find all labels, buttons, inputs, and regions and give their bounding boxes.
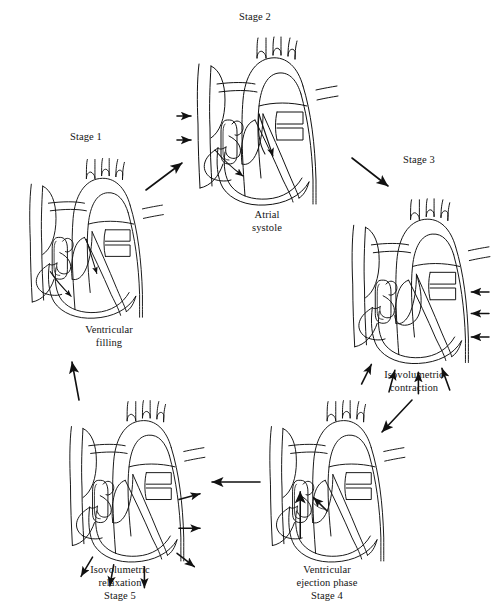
cardiac-cycle-figure: Stage 1 Ventricular filling Stage 2 Atri… [0,0,491,616]
connector-3-4-arrow [382,400,412,432]
stage-1-number-label: Stage 1 [46,130,126,143]
connector-5-1-arrow [72,362,79,400]
stage-3-heart-illustration [352,199,490,394]
stage-5-phase-label: Isovolumetric relaxation [70,563,170,589]
stage-4-heart-illustration [270,401,405,562]
stage-2-phase-label: Atrial systole [227,208,307,234]
stage-1-phase-label: Ventricular filling [69,323,149,349]
stage-4-number-label: Stage 4 [287,589,367,602]
stage-3-phase-label: Isovolumetric contraction [364,368,464,394]
stage-5-number-label: Stage 5 [80,589,160,602]
stage-1-heart-illustration [30,159,164,319]
stage-2-number-label: Stage 2 [215,10,295,23]
stage-4-phase-label: Ventricular ejection phase [277,563,377,589]
stage-2-heart-illustration [177,37,338,205]
diagram-canvas [0,0,491,616]
stage-5-heart-illustration [70,401,205,588]
connector-1-2-arrow [146,163,182,190]
stage-3-number-label: Stage 3 [379,153,459,166]
